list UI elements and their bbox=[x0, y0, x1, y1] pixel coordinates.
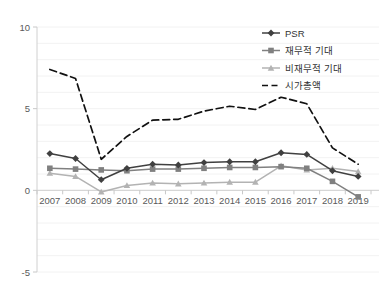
y-axis-tick-label: -5 bbox=[22, 267, 30, 278]
x-axis-tick-label: 2007 bbox=[39, 195, 60, 206]
data-point-square bbox=[330, 179, 336, 185]
data-point-square bbox=[47, 165, 53, 171]
data-point-square bbox=[98, 167, 104, 173]
y-axis-tick-label: 10 bbox=[19, 22, 30, 33]
data-point-square bbox=[73, 166, 79, 172]
x-axis-tick-label: 2017 bbox=[296, 195, 317, 206]
data-point-square bbox=[355, 194, 361, 200]
x-axis-tick-label: 2011 bbox=[142, 195, 162, 206]
x-axis-tick-label: 2012 bbox=[168, 195, 189, 206]
y-axis-tick-label: 0 bbox=[25, 185, 30, 196]
x-axis-tick-label: 2008 bbox=[65, 195, 86, 206]
x-axis-tick-label: 2010 bbox=[116, 195, 137, 206]
data-point-square bbox=[227, 165, 233, 171]
y-axis-tick-label: 5 bbox=[25, 103, 30, 114]
chart-canvas: 1050-5 200720082009201020112012201320142… bbox=[0, 0, 379, 291]
legend-label: PSR bbox=[285, 28, 305, 39]
legend-label: 비재무적 기대 bbox=[285, 63, 342, 74]
data-point-square bbox=[201, 165, 207, 171]
x-axis-tick-label: 2009 bbox=[91, 195, 112, 206]
legend-label: 재무적 기대 bbox=[285, 45, 333, 56]
legend-label: 시가총액 bbox=[285, 80, 321, 91]
data-point-square bbox=[268, 48, 274, 54]
x-axis-tick-label: 2015 bbox=[245, 195, 266, 206]
data-point-square bbox=[253, 165, 259, 171]
x-axis-tick-label: 2013 bbox=[193, 195, 214, 206]
x-axis-tick-label: 2018 bbox=[322, 195, 343, 206]
x-axis-tick-label: 2016 bbox=[271, 195, 292, 206]
x-axis-tick-label: 2014 bbox=[219, 195, 240, 206]
data-point-square bbox=[304, 165, 310, 171]
data-point-square bbox=[278, 164, 284, 170]
line-chart: 1050-5 200720082009201020112012201320142… bbox=[0, 0, 379, 291]
